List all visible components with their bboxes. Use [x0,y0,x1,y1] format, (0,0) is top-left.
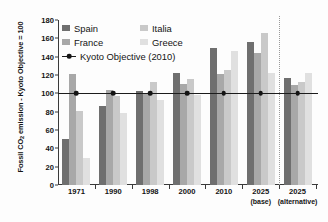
y-tick-label: 80 [46,107,54,116]
bar-italia[interactable] [113,96,120,185]
legend-label-france: France [74,37,103,48]
bar-france[interactable] [180,84,187,185]
legend-swatch-spain [62,25,70,31]
kyoto-objective-marker [295,91,300,96]
fossil-co2-emission-chart: Fossil CO2 emission - Kyoto Objective = … [0,0,328,222]
x-tick-label: 1990 [105,187,122,197]
legend-row: Spain Italia [62,21,222,35]
legend-label-italia: Italia [152,23,172,34]
y-axis-title-prefix: Fossil CO [16,139,25,173]
kyoto-objective-marker [148,91,153,96]
bar-italia[interactable] [224,70,231,186]
x-tick-label: 2000 [179,187,196,197]
bar-france[interactable] [254,53,261,185]
bar-italia[interactable] [298,82,305,185]
y-tick-label: 60 [46,126,54,135]
x-tick-label: 2010 [215,187,232,197]
y-tick-label: 40 [46,144,54,153]
bar-group [242,20,279,185]
y-axis-title-subscript: 2 [19,136,25,139]
x-axis-labels: 197119901998200020102025(base)2025(alter… [58,187,316,221]
bar-greece[interactable] [268,73,275,185]
x-tick-qualifier: (base) [250,197,271,207]
kyoto-objective-marker [258,91,263,96]
legend-label-kyoto-objective: Kyoto Objective (2010) [80,51,175,62]
x-tick-label: 1971 [68,187,85,197]
legend-line-marker-icon [62,53,76,60]
bar-spain[interactable] [62,139,69,185]
x-tick-label: 2025(base) [250,187,271,207]
bar-france[interactable] [106,90,113,185]
bar-greece[interactable] [305,73,312,185]
bar-italia[interactable] [76,111,83,185]
y-tick-label: 20 [46,162,54,171]
bar-greece[interactable] [120,113,127,185]
legend-item-italia: Italia [140,23,172,34]
legend-label-spain: Spain [74,23,98,34]
chart-legend: Spain Italia France Greece Kyoto Obj [62,21,222,63]
legend-row: Kyoto Objective (2010) [62,49,222,63]
bar-france[interactable] [291,85,298,185]
legend-swatch-italia [140,25,148,31]
y-axis-title-suffix: emission - Kyoto Objective = 100 [16,22,25,136]
legend-item-kyoto-objective: Kyoto Objective (2010) [62,51,175,62]
legend-row: France Greece [62,35,222,49]
bar-spain[interactable] [210,48,217,185]
x-tick-label: 2025(alternative) [278,187,318,207]
kyoto-objective-marker [74,91,79,96]
scenario-divider-line [279,16,280,185]
bar-greece[interactable] [194,95,201,185]
x-tick-label: 1998 [142,187,159,197]
bar-spain[interactable] [136,91,143,185]
y-tick-label: 120 [41,71,54,80]
y-tick-label: 140 [41,52,54,61]
legend-swatch-france [62,39,70,45]
y-tick-label: 180 [41,16,54,25]
legend-item-spain: Spain [62,23,140,34]
x-tick-qualifier: (alternative) [278,197,318,207]
bar-italia[interactable] [150,82,157,185]
bar-group [279,20,316,185]
bar-italia[interactable] [261,33,268,185]
legend-label-greece: Greece [152,37,183,48]
legend-swatch-greece [140,39,148,45]
y-tick-label: 160 [41,34,54,43]
bar-spain[interactable] [247,42,254,185]
bar-greece[interactable] [231,51,238,185]
kyoto-objective-marker [222,91,227,96]
bar-france[interactable] [143,93,150,185]
bar-spain[interactable] [173,73,180,185]
bar-spain[interactable] [99,106,106,185]
kyoto-objective-marker [111,91,116,96]
bar-greece[interactable] [83,158,90,185]
bar-greece[interactable] [157,100,164,185]
kyoto-objective-marker [185,91,190,96]
legend-item-greece: Greece [140,37,183,48]
y-axis-title: Fossil CO2 emission - Kyoto Objective = … [14,0,28,197]
y-tick-label: 0 [50,181,54,190]
legend-item-france: France [62,37,140,48]
y-tick-label: 100 [41,89,54,98]
